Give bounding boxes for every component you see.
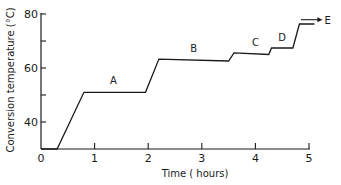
x-tick-label: 5 <box>306 152 313 165</box>
x-axis-title: Time ( hours) <box>161 168 229 179</box>
segment-labels: ABCDE <box>110 15 331 87</box>
x-tick-label: 2 <box>145 152 152 165</box>
y-tick-label: 60 <box>24 62 38 75</box>
segment-label-a: A <box>110 75 117 86</box>
y-tick-label: 40 <box>24 116 38 129</box>
x-tick-label: 3 <box>198 152 205 165</box>
temperature-chart: 406080012345 ABCDE Time ( hours) Convers… <box>0 0 341 185</box>
conversion-temperature-line <box>41 24 314 149</box>
segment-label-d: D <box>278 32 286 43</box>
x-tick-label: 0 <box>38 152 45 165</box>
x-tick-label: 1 <box>91 152 98 165</box>
segment-label-b: B <box>190 43 197 54</box>
y-tick-label: 80 <box>24 8 38 21</box>
arrow-head-icon <box>317 17 322 22</box>
x-tick-label: 4 <box>252 152 259 165</box>
segment-label-e: E <box>324 15 330 26</box>
tick-labels: 406080012345 <box>24 8 313 165</box>
axes <box>41 13 310 149</box>
segment-label-c: C <box>252 37 259 48</box>
ticks <box>41 14 309 149</box>
y-axis-title: Conversion temperature (°C) <box>5 7 16 152</box>
